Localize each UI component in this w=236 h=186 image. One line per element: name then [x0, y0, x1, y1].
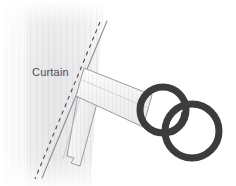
- curtain-label: Curtain: [32, 66, 69, 78]
- curtain-left-fade: [0, 0, 26, 186]
- illustration-canvas: Curtain: [0, 0, 236, 186]
- curtain-ring-illustration: Curtain: [0, 0, 236, 186]
